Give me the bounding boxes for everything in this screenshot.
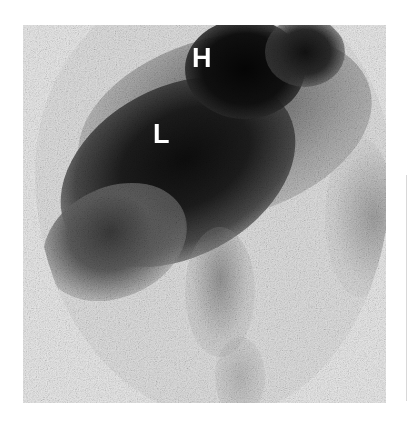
heart-label: H bbox=[192, 45, 212, 72]
grain-texture bbox=[23, 25, 386, 403]
right-edge-line bbox=[406, 175, 407, 401]
scan-image-frame: H L bbox=[23, 25, 386, 403]
scan-canvas: H L bbox=[0, 0, 409, 422]
liver-label: L bbox=[153, 121, 170, 148]
